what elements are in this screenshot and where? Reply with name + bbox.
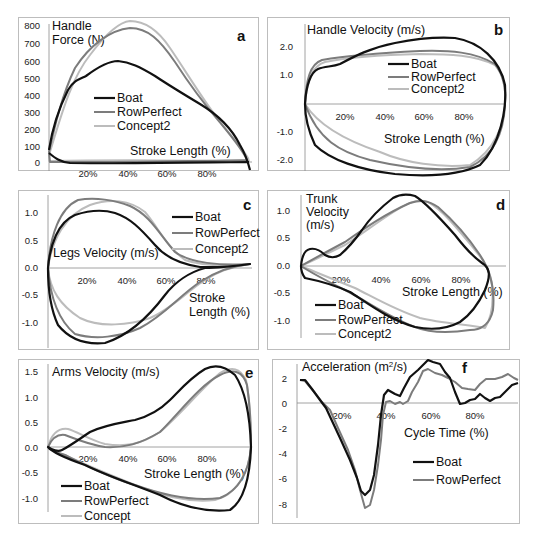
chart-title: Handle Velocity (m/s) [307, 23, 425, 37]
y-tick: -1.0 [274, 315, 290, 326]
y-tick: -8 [279, 499, 287, 510]
y-tick: 0 [282, 398, 287, 409]
legend-label: Boat [338, 298, 364, 312]
y-tick: -0.5 [22, 289, 38, 300]
chart-title: Velocity [306, 205, 350, 219]
y-tick: 600 [24, 56, 40, 67]
x-tick: 60% [156, 275, 176, 286]
y-tick: 2 [282, 373, 287, 384]
x-tick: 40% [371, 274, 391, 285]
chart-title: Handle [52, 19, 92, 33]
y-tick: -4 [279, 448, 287, 459]
y-tick: 0.5 [277, 232, 290, 243]
chart-title: (m/s) [306, 218, 334, 232]
y-tick: 500 [24, 73, 40, 84]
y-tick: -1.0 [22, 317, 38, 328]
x-tick: 80% [197, 453, 217, 464]
legend-label: Concept [84, 509, 131, 523]
y-tick: -2.0 [277, 154, 293, 165]
y-tick: 800 [24, 20, 40, 31]
x-tick: 40% [117, 275, 137, 286]
y-tick: -6 [279, 473, 287, 484]
chart-title: Arms Velocity (m/s) [52, 365, 160, 379]
x-tick: 60% [411, 274, 431, 285]
legend-label: RowPerfect [195, 226, 260, 240]
legend-label: Concept2 [338, 327, 392, 341]
legend-label: Boat [195, 210, 221, 224]
chart-title: Legs Velocity (m/s) [53, 246, 159, 260]
panel-e-arms-velocity: 1.5 1.0 0.5 0.0 -0.5 -1.0 20% 40% 60% 80… [19, 360, 259, 524]
y-tick: 200 [24, 124, 40, 135]
y-tick: -2 [279, 423, 287, 434]
legend-label: Boat [411, 57, 437, 71]
x-axis-label: Length (%) [189, 305, 250, 319]
panel-a-handle-force: 800 700 600 500 400 300 200 100 0 20% 40… [19, 18, 259, 180]
y-tick: 100 [24, 141, 40, 152]
legend-label: Concept2 [411, 82, 465, 96]
x-tick: 20% [332, 410, 352, 421]
y-tick: 0.5 [25, 235, 38, 246]
legend-label: Boat [117, 91, 143, 105]
x-tick: 60% [157, 168, 177, 179]
panel-b-frame [268, 18, 510, 171]
panel-letter: b [494, 21, 503, 38]
legend-label: Concept2 [117, 119, 171, 133]
x-tick: 80% [197, 168, 217, 179]
panel-letter: d [496, 196, 505, 213]
x-tick: 80% [454, 111, 474, 122]
y-tick: 700 [24, 38, 40, 49]
legend-label: Boat [436, 455, 462, 469]
legend-label: RowPerfect [338, 313, 403, 327]
y-tick: 0 [35, 157, 40, 168]
x-tick: 80% [465, 410, 485, 421]
y-tick: 0.0 [277, 260, 290, 271]
chart-title: Trunk [306, 192, 338, 206]
y-tick: 1.0 [280, 69, 293, 80]
panel-d-trunk-velocity: 1.0 0.5 0.0 -0.5 -1.0 20% 40% 60% 80% Tr… [268, 191, 510, 350]
y-tick: 0.5 [25, 417, 38, 428]
x-tick: 20% [335, 111, 355, 122]
legend-label: RowPerfect [84, 494, 149, 508]
x-tick: 40% [376, 410, 396, 421]
x-axis-label: Stroke Length (%) [402, 285, 503, 299]
panel-b-handle-velocity: 2.0 1.0 -1.0 -2.0 20% 40% 60% 80% Handle… [268, 18, 510, 176]
x-tick: 20% [77, 275, 97, 286]
y-tick: 300 [24, 107, 40, 118]
x-tick: 20% [78, 168, 98, 179]
y-tick: 1.0 [277, 205, 290, 216]
x-tick: 40% [375, 111, 395, 122]
y-tick: -1.0 [22, 493, 38, 504]
x-tick: 60% [414, 111, 434, 122]
panel-c-legs-velocity: 1.0 0.5 0.0 -0.5 -1.0 20% 40% 60% 80% Le… [19, 191, 261, 350]
y-tick: -1.0 [277, 126, 293, 137]
y-tick: 0.0 [25, 442, 38, 453]
y-tick: 1.0 [25, 392, 38, 403]
legend-label: Concept2 [195, 242, 249, 256]
y-tick: -0.5 [274, 287, 290, 298]
panel-letter: c [243, 196, 251, 213]
panel-letter: a [237, 27, 246, 44]
x-axis-label: Stroke Length (%) [384, 132, 485, 146]
legend-label: Boat [84, 479, 110, 493]
x-axis-label: Cycle Time (%) [404, 426, 489, 440]
x-tick: 60% [157, 453, 177, 464]
x-axis-label: Stroke Length (%) [144, 467, 245, 481]
x-axis-label: Stroke Length (%) [130, 144, 231, 158]
legend-label: RowPerfect [117, 105, 182, 119]
y-tick: 2.0 [280, 41, 293, 52]
legend-label: RowPerfect [436, 473, 501, 487]
x-tick: 40% [118, 453, 138, 464]
y-tick: 1.0 [25, 207, 38, 218]
y-tick: 0.0 [25, 262, 38, 273]
y-tick: 400 [24, 90, 40, 101]
x-axis-label: Stroke [189, 291, 225, 305]
panel-f-acceleration: 2 0 -2 -4 -6 -8 20% 40% 60% 80% Accelera… [273, 359, 520, 524]
x-tick: 40% [118, 168, 138, 179]
y-tick: -0.5 [22, 467, 38, 478]
y-tick: 1.5 [25, 366, 38, 377]
x-tick: 60% [421, 410, 441, 421]
x-tick: 80% [451, 274, 471, 285]
figure-canvas: 800 700 600 500 400 300 200 100 0 20% 40… [0, 0, 533, 541]
